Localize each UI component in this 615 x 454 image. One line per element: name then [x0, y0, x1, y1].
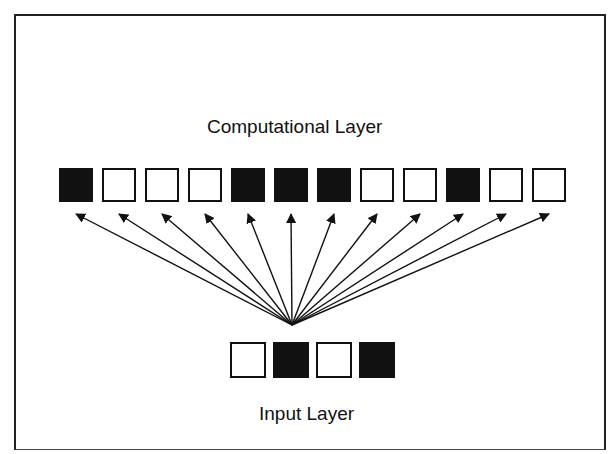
connection-arrow: [292, 214, 506, 325]
connection-arrows: [0, 0, 615, 454]
connection-arrow: [292, 214, 420, 325]
input-cell: [316, 342, 352, 378]
connection-arrow: [291, 214, 292, 325]
input-layer-title: Input Layer: [259, 403, 354, 425]
input-cell: [230, 342, 266, 378]
connection-arrow: [162, 214, 292, 325]
input-cell: [273, 342, 309, 378]
connection-arrow: [292, 214, 377, 325]
connection-arrow: [292, 214, 549, 325]
connection-arrow: [248, 214, 292, 325]
connection-arrow: [76, 214, 292, 325]
input-cell: [359, 342, 395, 378]
connection-arrow: [292, 214, 463, 325]
connection-arrow: [119, 214, 292, 325]
connection-arrow: [292, 214, 334, 325]
connection-arrow: [205, 214, 292, 325]
